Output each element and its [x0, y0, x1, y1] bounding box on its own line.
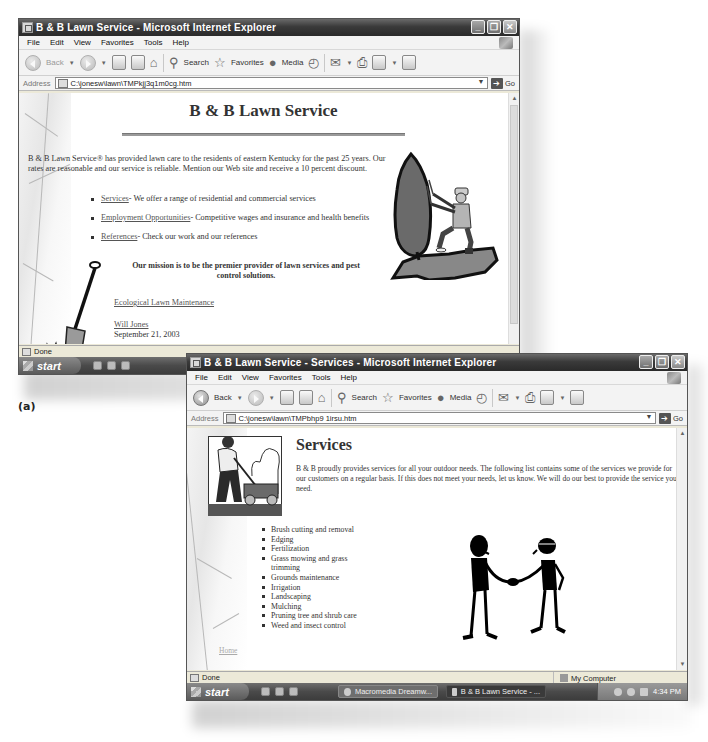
back-button[interactable]: Back [46, 58, 64, 67]
scroll-up-arrow-icon[interactable]: ▲ [677, 428, 687, 439]
menu-edit[interactable]: Edit [50, 38, 64, 47]
vertical-scrollbar[interactable]: ▲ ▼ [676, 428, 687, 670]
history-icon[interactable]: ◴ [476, 391, 487, 404]
search-button[interactable]: Search [352, 393, 377, 402]
back-button[interactable]: Back [214, 393, 232, 402]
ie-quicklaunch-icon[interactable] [93, 361, 102, 370]
favorites-button[interactable]: Favorites [231, 58, 264, 67]
address-label: Address [23, 79, 51, 88]
edit-dropdown-icon[interactable]: ▼ [391, 60, 397, 66]
menu-favorites[interactable]: Favorites [269, 373, 302, 382]
media-icon[interactable]: ● [437, 391, 445, 404]
taskbar-item-ie[interactable]: B & B Lawn Service - ... [446, 685, 546, 698]
refresh-icon[interactable] [299, 390, 313, 405]
title-bar[interactable]: B & B Lawn Service - Services - Microsof… [187, 354, 687, 371]
address-input[interactable]: C:\jonesw\lawn\TMPkjj3q1m0cg.htm ▼ [55, 77, 488, 89]
close-button[interactable]: ✕ [671, 355, 685, 369]
back-arrow-icon[interactable] [193, 390, 209, 406]
start-button[interactable]: start [19, 357, 81, 374]
menu-file[interactable]: File [27, 38, 40, 47]
home-icon[interactable]: ⌂ [150, 56, 158, 69]
minimize-button[interactable]: _ [471, 20, 485, 34]
address-input[interactable]: C:\jonesw\lawn\TMPbhp9 1irsu.htm ▼ [223, 412, 656, 424]
refresh-icon[interactable] [131, 55, 145, 70]
go-button[interactable]: ➔ Go [491, 78, 515, 89]
word-edit-icon[interactable] [372, 55, 386, 70]
address-dropdown-icon[interactable]: ▼ [643, 413, 655, 423]
ie-quicklaunch-icon[interactable] [261, 687, 270, 696]
media-button[interactable]: Media [282, 58, 304, 67]
search-icon[interactable]: ⚲ [337, 391, 347, 404]
word-edit-icon[interactable] [540, 390, 554, 405]
menu-view[interactable]: View [242, 373, 259, 382]
menu-help[interactable]: Help [340, 373, 356, 382]
mail-dropdown-icon[interactable]: ▼ [346, 60, 352, 66]
back-dropdown-icon[interactable]: ▼ [237, 395, 243, 401]
search-icon[interactable]: ⚲ [169, 56, 179, 69]
menu-tools[interactable]: Tools [312, 373, 331, 382]
figure-caption: (a) [18, 400, 35, 413]
scroll-down-arrow-icon[interactable]: ▼ [677, 659, 687, 670]
network-icon[interactable] [614, 688, 622, 696]
forward-arrow-icon[interactable] [248, 390, 264, 406]
desktop-quicklaunch-icon[interactable] [121, 361, 130, 370]
favorites-star-icon[interactable]: ☆ [214, 56, 226, 69]
volume-icon[interactable] [627, 688, 635, 696]
edit-dropdown-icon[interactable]: ▼ [559, 395, 565, 401]
go-button[interactable]: ➔ Go [659, 413, 683, 424]
minimize-button[interactable]: _ [639, 355, 653, 369]
ecological-lawn-link[interactable]: Ecological Lawn Maintenance [114, 298, 214, 307]
title-bar[interactable]: B & B Lawn Service - Microsoft Internet … [19, 19, 519, 36]
address-dropdown-icon[interactable]: ▼ [475, 78, 487, 88]
scroll-up-arrow-icon[interactable]: ▲ [509, 93, 519, 104]
vertical-scrollbar[interactable]: ▲ [508, 93, 519, 344]
employment-link[interactable]: Employment Opportunities [101, 213, 190, 222]
favorites-star-icon[interactable]: ☆ [382, 391, 394, 404]
menu-view[interactable]: View [74, 38, 91, 47]
close-button[interactable]: ✕ [503, 20, 517, 34]
media-quicklaunch-icon[interactable] [107, 361, 116, 370]
window2-shadow [192, 700, 692, 728]
home-link[interactable]: Home [219, 646, 237, 655]
restore-button[interactable]: ❐ [655, 355, 669, 369]
menu-file[interactable]: File [195, 373, 208, 382]
mail-icon[interactable]: ✉ [330, 56, 341, 69]
stop-icon[interactable] [112, 55, 126, 70]
mail-icon[interactable]: ✉ [498, 391, 509, 404]
page-status-icon [22, 348, 31, 356]
media-quicklaunch-icon[interactable] [275, 687, 284, 696]
forward-dropdown-icon[interactable]: ▼ [101, 60, 107, 66]
stop-icon[interactable] [280, 390, 294, 405]
author-email-link[interactable]: Will Jones [114, 320, 148, 329]
scrollbar-thumb[interactable] [510, 105, 518, 324]
desktop-quicklaunch-icon[interactable] [289, 687, 298, 696]
home-icon[interactable]: ⌂ [318, 391, 326, 404]
forward-dropdown-icon[interactable]: ▼ [269, 395, 275, 401]
status-text: Done [34, 347, 52, 356]
menu-help[interactable]: Help [172, 38, 188, 47]
back-arrow-icon[interactable] [25, 55, 41, 71]
taskbar-item-dreamweaver[interactable]: Macromedia Dreamw... [338, 685, 438, 698]
menu-tools[interactable]: Tools [144, 38, 163, 47]
references-link[interactable]: References [101, 232, 137, 241]
history-icon[interactable]: ◴ [308, 56, 319, 69]
ie-page-icon [22, 22, 33, 33]
display-icon[interactable] [640, 688, 648, 696]
restore-button[interactable]: ❐ [487, 20, 501, 34]
favorites-button[interactable]: Favorites [399, 393, 432, 402]
media-button[interactable]: Media [450, 393, 472, 402]
media-icon[interactable]: ● [269, 56, 277, 69]
start-button[interactable]: start [187, 683, 249, 700]
menu-edit[interactable]: Edit [218, 373, 232, 382]
back-dropdown-icon[interactable]: ▼ [69, 60, 75, 66]
services-link[interactable]: Services [101, 194, 129, 203]
clock[interactable]: 4:34 PM [653, 687, 681, 696]
discuss-icon[interactable] [402, 55, 416, 70]
discuss-icon[interactable] [570, 390, 584, 405]
menu-favorites[interactable]: Favorites [101, 38, 134, 47]
search-button[interactable]: Search [184, 58, 209, 67]
print-icon[interactable]: ⎙ [357, 56, 367, 69]
forward-arrow-icon[interactable] [80, 55, 96, 71]
mail-dropdown-icon[interactable]: ▼ [514, 395, 520, 401]
print-icon[interactable]: ⎙ [525, 391, 535, 404]
